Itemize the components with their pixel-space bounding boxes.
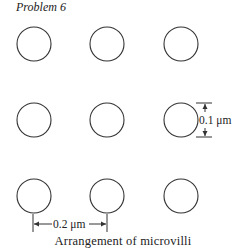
microvillus-circle	[90, 27, 124, 61]
diameter-label: 0.1 μm	[199, 114, 231, 127]
microvillus-circle	[164, 103, 198, 137]
figure-caption: Arrangement of microvilli	[0, 234, 246, 249]
microvillus-circle	[90, 179, 124, 213]
microvillus-circle	[164, 27, 198, 61]
microvilli-diagram: 0.1 μm 0.2 μm	[0, 0, 246, 250]
microvillus-circle	[17, 179, 51, 213]
microvillus-circle	[90, 103, 124, 137]
spacing-label: 0.2 μm	[53, 218, 85, 231]
microvillus-circle	[17, 27, 51, 61]
microvillus-circle	[17, 103, 51, 137]
microvillus-circle	[164, 179, 198, 213]
